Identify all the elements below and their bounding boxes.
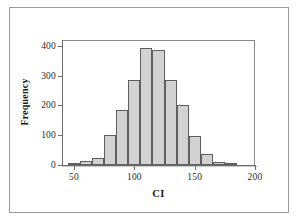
x-axis-tick-label: 200 — [248, 172, 263, 182]
histogram-bar — [201, 154, 213, 165]
baseline-shadow — [62, 166, 258, 167]
histogram-bar — [80, 161, 92, 165]
histogram-bar — [104, 135, 116, 165]
y-axis-tick — [58, 165, 62, 166]
histogram-bar — [140, 48, 152, 165]
histogram-figure: 0100200300400 50100150200 Frequency CI — [0, 0, 298, 221]
x-axis-tick — [134, 166, 135, 170]
x-axis-tick — [74, 166, 75, 170]
histogram-bar — [152, 50, 164, 165]
x-axis-tick — [195, 166, 196, 170]
y-axis-tick-label: 0 — [51, 160, 56, 170]
y-axis-tick-label: 400 — [41, 41, 56, 51]
x-axis-line — [62, 165, 256, 166]
y-axis-tick-label: 100 — [41, 130, 56, 140]
histogram-bar — [68, 163, 80, 165]
y-axis-tick-label: 200 — [41, 100, 56, 110]
y-axis-tick — [58, 135, 62, 136]
histogram-bar — [213, 162, 225, 165]
x-axis-tick-label: 100 — [127, 172, 142, 182]
y-axis-tick-label: 300 — [41, 71, 56, 81]
histogram-bar — [165, 80, 177, 165]
x-axis-tick-label: 50 — [69, 172, 79, 182]
histogram-bar — [189, 136, 201, 165]
x-axis-tick-label: 150 — [187, 172, 202, 182]
histogram-bar — [92, 158, 104, 165]
x-axis-title: CI — [62, 188, 255, 199]
y-axis-tick — [58, 46, 62, 47]
histogram-bars — [62, 40, 255, 165]
histogram-bar — [116, 110, 128, 165]
x-axis-tick — [255, 166, 256, 170]
histogram-bar — [128, 80, 140, 165]
y-axis-title: Frequency — [19, 78, 30, 125]
y-axis-tick — [58, 105, 62, 106]
y-axis-tick — [58, 76, 62, 77]
histogram-bar — [177, 105, 189, 165]
histogram-bar — [225, 163, 237, 165]
